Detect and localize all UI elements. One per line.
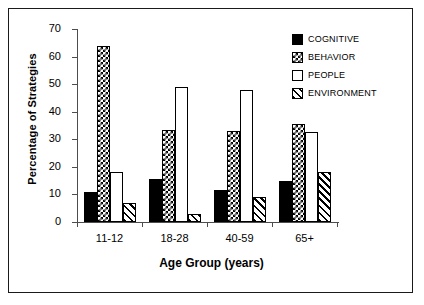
x-axis-line (77, 222, 339, 223)
bar (227, 131, 240, 222)
y-tick (72, 84, 77, 85)
y-tick (72, 112, 77, 113)
legend-swatch-icon (292, 34, 303, 45)
legend-swatch-icon (292, 52, 303, 63)
legend-label: BEHAVIOR (308, 52, 355, 62)
bar (292, 124, 305, 222)
bar (175, 87, 188, 222)
x-tick-label: 11-12 (75, 232, 145, 244)
x-tick-label: 40-59 (205, 232, 275, 244)
bar (240, 90, 253, 222)
y-tick-label: 50 (21, 78, 61, 89)
y-tick-label: 10 (21, 188, 61, 199)
x-tick (142, 222, 143, 227)
x-tick-label: 18-28 (140, 232, 210, 244)
y-axis-line (77, 29, 78, 223)
legend-item[interactable]: BEHAVIOR (292, 49, 412, 65)
bar (214, 190, 227, 222)
y-tick-label: 40 (21, 106, 61, 117)
bar (110, 172, 123, 222)
y-tick-label: 30 (21, 133, 61, 144)
bar (123, 203, 136, 222)
legend-item[interactable]: COGNITIVE (292, 31, 412, 47)
y-tick (72, 57, 77, 58)
x-tick (272, 222, 273, 227)
bar (318, 172, 331, 222)
chart-figure: Percentage of Strategies Age Group (year… (8, 8, 413, 293)
legend-label: PEOPLE (308, 70, 345, 80)
legend-item[interactable]: ENVIRONMENT (292, 85, 412, 101)
legend-swatch-icon (292, 70, 303, 81)
y-tick (72, 167, 77, 168)
x-tick-label: 65+ (270, 232, 340, 244)
bar (279, 181, 292, 222)
x-tick (337, 222, 338, 227)
y-tick (72, 139, 77, 140)
chart-legend: COGNITIVEBEHAVIORPEOPLEENVIRONMENT (292, 31, 412, 103)
y-tick-label: 0 (21, 216, 61, 227)
x-axis-title: Age Group (years) (9, 256, 414, 270)
y-tick-label: 60 (21, 51, 61, 62)
y-tick (72, 29, 77, 30)
legend-item[interactable]: PEOPLE (292, 67, 412, 83)
y-tick (72, 194, 77, 195)
legend-label: ENVIRONMENT (308, 88, 377, 98)
bar (253, 197, 266, 222)
bar (305, 132, 318, 222)
legend-label: COGNITIVE (308, 34, 359, 44)
bar (97, 46, 110, 222)
x-tick (77, 222, 78, 227)
y-tick-label: 20 (21, 161, 61, 172)
y-tick-label: 70 (21, 23, 61, 34)
x-tick (207, 222, 208, 227)
bar (84, 192, 97, 222)
bar (188, 214, 201, 222)
bar (149, 179, 162, 222)
legend-swatch-icon (292, 88, 303, 99)
bar (162, 130, 175, 222)
